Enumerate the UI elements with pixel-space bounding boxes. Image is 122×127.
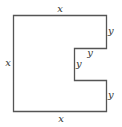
label-bottom-side: x xyxy=(58,113,64,124)
shape-outline xyxy=(14,16,107,112)
label-top-side: x xyxy=(57,3,63,14)
notched-square-diagram: x x x y y y y xyxy=(0,0,122,127)
label-left-side: x xyxy=(5,57,11,68)
label-right-upper-side: y xyxy=(107,25,114,36)
label-notch-top-side: y xyxy=(86,47,93,58)
label-right-lower-side: y xyxy=(107,89,114,100)
label-notch-inner-side: y xyxy=(75,58,82,69)
